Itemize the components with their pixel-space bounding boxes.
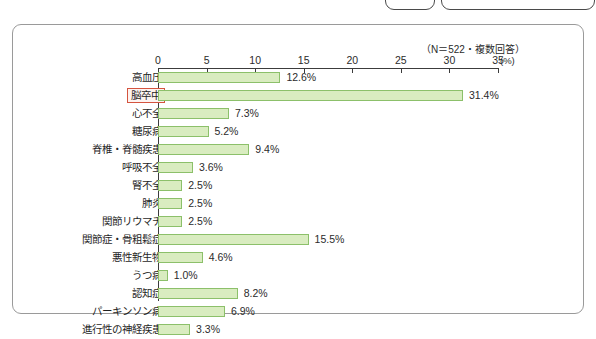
bar-value-label: 7.3% [235,107,259,120]
bar [158,324,190,335]
category-label: 進行性の神経疾患 [82,323,162,336]
x-axis-tick-label: 10 [235,54,275,66]
bar-row: 悪性新生物4.6% [0,249,596,267]
bar-value-label: 31.4% [469,89,499,102]
x-axis-tick-label: 20 [332,54,372,66]
bar-value-label: 4.6% [209,251,233,264]
bar [158,234,309,245]
category-label: 呼吸不全 [122,161,162,174]
bar [158,180,182,191]
bar [158,216,182,227]
bar-value-label: 2.5% [188,179,212,192]
bar-value-label: 6.9% [231,305,255,318]
bar [158,144,249,155]
bar-value-label: 8.2% [244,287,268,300]
bar-row: うつ病1.0% [0,267,596,285]
bar [158,306,225,317]
bar-row: 肺炎2.5% [0,195,596,213]
bar [158,288,238,299]
bar [158,270,168,281]
bar-row: 糖尿病5.2% [0,123,596,141]
bar-row: 脳卒中31.4% [0,87,596,105]
bar-value-label: 1.0% [174,269,198,282]
bar [158,90,463,101]
x-axis-tick-label: 35 [478,54,518,66]
bar-row: 関節リウマチ2.5% [0,213,596,231]
bar-row: 腎不全2.5% [0,177,596,195]
bar-row: 心不全7.3% [0,105,596,123]
bar-row: 高血圧12.6% [0,69,596,87]
bar-row: 関節症・骨粗鬆症15.5% [0,231,596,249]
bar-value-label: 3.6% [199,161,223,174]
bar [158,72,280,83]
x-axis-tick-label: 15 [284,54,324,66]
bar [158,198,182,209]
bar-row: 呼吸不全3.6% [0,159,596,177]
bar-value-label: 15.5% [315,233,345,246]
bar-value-label: 5.2% [215,125,239,138]
bar-row: パーキンソン病6.9% [0,303,596,321]
bar-row: 進行性の神経疾患3.3% [0,321,596,339]
bar [158,108,229,119]
bar-value-label: 9.4% [255,143,279,156]
bar-value-label: 2.5% [188,215,212,228]
x-axis-tick-label: 5 [187,54,227,66]
category-label: 関節リウマチ [102,215,162,228]
category-label: 関節症・骨粗鬆症 [82,233,162,246]
bar [158,162,193,173]
bar-row: 認知症8.2% [0,285,596,303]
category-label: 脊椎・脊髄疾患 [92,143,162,156]
bar [158,252,203,263]
x-axis-tick-label: 25 [381,54,421,66]
x-axis-tick-label: 0 [138,54,178,66]
bar-value-label: 3.3% [196,323,220,336]
category-label: パーキンソン病 [92,305,162,318]
bar-value-label: 2.5% [188,197,212,210]
bar-value-label: 12.6% [286,71,316,84]
bar [158,126,209,137]
x-axis-tick-label: 30 [429,54,469,66]
category-label: 悪性新生物 [112,251,162,264]
bar-row: 脊椎・脊髄疾患9.4% [0,141,596,159]
